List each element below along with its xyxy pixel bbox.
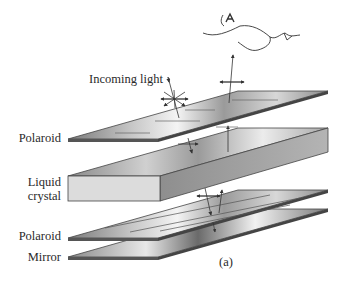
liquid-crystal-label-line2: crystal [28,189,62,203]
bottom-polaroid-label: Polaroid [19,229,62,243]
top-polaroid-label: Polaroid [19,131,62,145]
mirror-label: Mirror [28,250,62,264]
unpolarized-star-icon [161,90,188,108]
lcd-diagram: Incoming light Polaroid Liquid crystal P… [0,0,350,283]
liquid-crystal-label-line1: Liquid [28,175,62,189]
incoming-light-label: Incoming light [89,72,163,86]
observer-eye-sketch [203,14,300,50]
figure-caption: (a) [219,255,233,269]
